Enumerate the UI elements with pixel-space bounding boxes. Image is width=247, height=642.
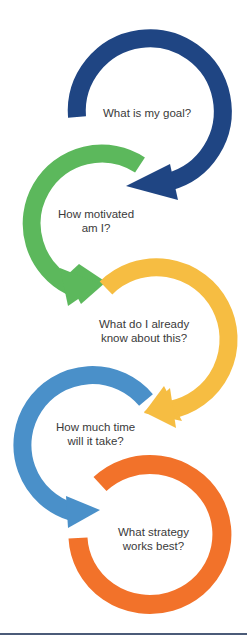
time-text-line1: How much time	[56, 420, 135, 434]
step-label-prior-knowledge: What do I already know about this?	[99, 317, 189, 345]
step-time-arrow	[22, 375, 146, 528]
step-label-time: How much time will it take?	[56, 420, 135, 448]
bottom-divider	[0, 633, 247, 635]
prior-knowledge-text-line2: know about this?	[99, 331, 189, 345]
strategy-text-line2: works best?	[118, 539, 189, 553]
strategy-text-line1: What strategy	[118, 525, 189, 539]
step-label-strategy: What strategy works best?	[118, 525, 189, 553]
prior-knowledge-text-line1: What do I already	[99, 317, 189, 331]
motivation-text-line2: am I?	[58, 221, 134, 235]
step-prior-knowledge-arrow	[106, 267, 229, 428]
goal-text: What is my goal?	[103, 106, 191, 120]
motivation-text-line1: How motivated	[58, 207, 134, 221]
step-label-motivation: How motivated am I?	[58, 207, 134, 235]
step-label-goal: What is my goal?	[103, 106, 191, 120]
time-text-line2: will it take?	[56, 434, 135, 448]
